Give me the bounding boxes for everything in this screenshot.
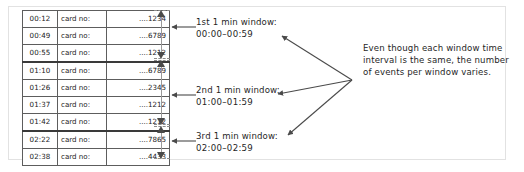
- table-row: 01:42 card no: ....1212: [23, 114, 170, 132]
- row-card-label: card no:: [58, 80, 107, 97]
- table-row: 00:49 card no: ....6789: [23, 28, 170, 45]
- table-row: 01:26 card no: ....2345: [23, 80, 170, 97]
- row-time: 00:55: [23, 45, 58, 63]
- table-row: 01:10 card no: ....6789: [23, 62, 170, 80]
- window-note-3-title: 3rd 1 min window:: [196, 131, 278, 141]
- window-bracket-1: [155, 10, 169, 59]
- table-row: 02:38 card no: ....4433: [23, 149, 170, 166]
- row-card-label: card no:: [58, 97, 107, 114]
- event-table-body: 00:12 card no: ....1234 00:49 card no: .…: [23, 11, 170, 166]
- table-row: 00:12 card no: ....1234: [23, 11, 170, 28]
- row-time: 02:38: [23, 149, 58, 166]
- row-card-label: card no:: [58, 149, 107, 166]
- row-time: 01:26: [23, 80, 58, 97]
- window-note-3-range: 02:00–02:59: [196, 143, 278, 155]
- row-time: 01:37: [23, 97, 58, 114]
- row-time: 00:49: [23, 28, 58, 45]
- window-note-1-title: 1st 1 min window:: [196, 17, 277, 27]
- table-row: 01:37 card no: ....1212: [23, 97, 170, 114]
- window-note-2-range: 01:00–01:59: [196, 97, 280, 109]
- row-time: 01:10: [23, 62, 58, 80]
- row-card-label: card no:: [58, 114, 107, 132]
- window-note-1-range: 00:00–00:59: [196, 29, 277, 41]
- event-table: 00:12 card no: ....1234 00:49 card no: .…: [22, 10, 170, 166]
- callout-arrow-to-window-2: [278, 80, 352, 94]
- tumbling-window-figure: 00:12 card no: ....1234 00:49 card no: .…: [0, 0, 524, 172]
- row-card-label: card no:: [58, 131, 107, 149]
- callout-text: Even though each window time interval is…: [363, 42, 515, 79]
- row-card-label: card no:: [58, 28, 107, 45]
- row-card-label: card no:: [58, 62, 107, 80]
- window-bracket-3-bottom-tick: [154, 158, 170, 159]
- window-note-2: 2nd 1 min window: 01:00–01:59: [196, 85, 280, 108]
- window-bracket-1-arrowhead-up: [157, 10, 165, 17]
- table-row: 00:55 card no: ....1212: [23, 45, 170, 63]
- window-bracket-1-stem: [161, 14, 162, 55]
- window-note-1: 1st 1 min window: 00:00–00:59: [196, 17, 277, 40]
- callout-arrow-to-window-1: [282, 36, 352, 80]
- window-bracket-2-bottom-tick: [154, 124, 170, 125]
- window-bracket-1-bottom-tick: [154, 58, 170, 59]
- window-bracket-2: [155, 60, 169, 125]
- window-bracket-2-stem: [161, 64, 162, 121]
- row-card-label: card no:: [58, 45, 107, 63]
- row-time: 02:22: [23, 131, 58, 149]
- table-row: 02:22 card no: ....7865: [23, 131, 170, 149]
- row-time: 01:42: [23, 114, 58, 132]
- window-bracket-3-arrowhead-up: [157, 126, 165, 133]
- window-note-3: 3rd 1 min window: 02:00–02:59: [196, 131, 278, 154]
- window-note-2-title: 2nd 1 min window:: [196, 85, 280, 95]
- row-card-label: card no:: [58, 11, 107, 28]
- window-bracket-3: [155, 126, 169, 159]
- window-bracket-2-arrowhead-up: [157, 60, 165, 67]
- row-time: 00:12: [23, 11, 58, 28]
- callout-arrow-to-window-3: [288, 80, 352, 135]
